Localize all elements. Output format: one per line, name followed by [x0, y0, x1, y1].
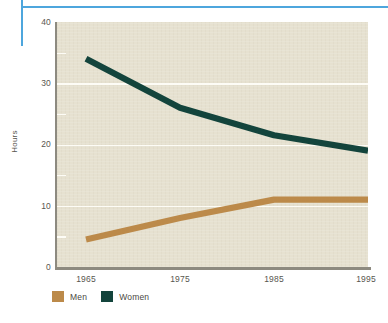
plot-area [57, 22, 368, 267]
legend-label-men: Men [70, 292, 87, 302]
series-lines [57, 22, 368, 267]
y-tick-40: 40 [11, 17, 51, 27]
legend-swatch-men-icon [52, 291, 64, 302]
series-line-men [86, 200, 368, 240]
y-tick-0: 0 [11, 262, 51, 272]
line-chart: 40 30 20 10 0 Hours 1965 1975 1985 1995 … [0, 0, 388, 323]
legend-label-women: Women [119, 292, 149, 302]
x-tick-1985: 1985 [252, 274, 296, 284]
legend-item-men[interactable]: Men [52, 291, 87, 302]
x-tick-1995: 1995 [344, 274, 388, 284]
x-axis-line [55, 267, 371, 270]
y-tick-10: 10 [11, 201, 51, 211]
series-line-women [86, 59, 368, 151]
y-axis-title: Hours [10, 122, 19, 162]
legend-item-women[interactable]: Women [101, 291, 149, 302]
y-axis-line [55, 22, 58, 269]
x-tick-1975: 1975 [158, 274, 202, 284]
y-axis-tick-labels: 40 30 20 10 0 [6, 0, 51, 323]
y-tick-30: 30 [11, 78, 51, 88]
chart-legend: Men Women [52, 291, 149, 302]
x-tick-1965: 1965 [64, 274, 108, 284]
legend-swatch-women-icon [101, 291, 113, 302]
